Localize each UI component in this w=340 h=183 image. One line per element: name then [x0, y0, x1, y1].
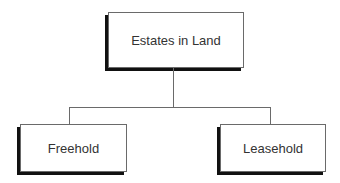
child-node-leasehold: Leasehold: [220, 124, 326, 172]
leasehold-label: Leasehold: [243, 141, 303, 156]
root-node-label: Estates in Land: [131, 33, 221, 48]
connector-freehold-vertical: [69, 107, 70, 124]
connector-horizontal: [69, 107, 271, 108]
freehold-label: Freehold: [48, 141, 99, 156]
connector-leasehold-vertical: [270, 107, 271, 124]
child-node-freehold: Freehold: [20, 124, 127, 172]
connector-root-vertical: [173, 68, 174, 108]
root-node-estates-in-land: Estates in Land: [108, 12, 244, 68]
